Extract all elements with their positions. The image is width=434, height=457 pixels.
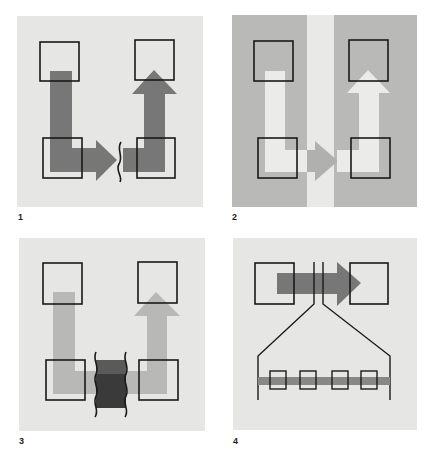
figure-canvas — [0, 0, 434, 457]
panel-1-right-bar — [50, 148, 98, 172]
panel-1-label: 1 — [18, 212, 23, 222]
panel-3-up-bar — [147, 315, 167, 394]
panel-4-expanded-bar — [258, 377, 390, 385]
panel-4-label: 4 — [233, 436, 238, 446]
panel-3-label: 3 — [19, 436, 24, 446]
panel-2-up-bar — [359, 92, 379, 172]
panel-3-right-bar-left — [53, 371, 98, 394]
panel-3-dark-block-top — [96, 360, 126, 374]
panel-4 — [233, 238, 417, 430]
panel-3 — [19, 238, 205, 431]
panel-2-right-bar-left — [265, 150, 309, 172]
panel-2-label: 2 — [232, 212, 237, 222]
panel-4-arrow-bar — [277, 273, 337, 294]
panel-1 — [17, 16, 203, 207]
panel-1-up-bar — [144, 90, 165, 172]
panel-2-light-channel — [307, 15, 334, 207]
panel-2 — [232, 15, 417, 207]
panel-4-background — [233, 238, 417, 430]
